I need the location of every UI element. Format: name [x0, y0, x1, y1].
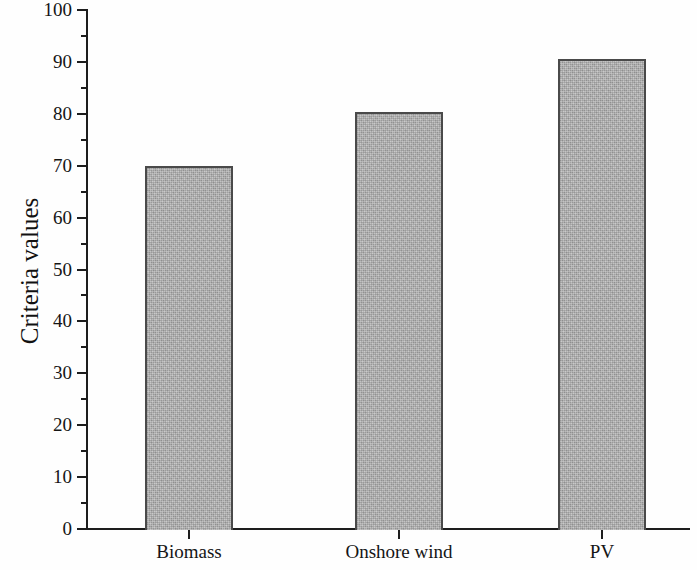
x-axis-label-onshore-wind: Onshore wind: [345, 541, 452, 563]
y-tick-label: 10: [0, 467, 72, 486]
y-tick-label-text: 50: [0, 260, 72, 279]
y-tick-label: 0: [0, 519, 72, 538]
y-tick-minor: [81, 294, 87, 296]
y-tick-label-text: 30: [0, 363, 72, 382]
x-tick: [601, 530, 603, 539]
y-tick-major: [77, 269, 87, 271]
y-tick-label-text: 10: [0, 467, 72, 486]
x-tick: [188, 530, 190, 539]
bar-biomass: [145, 166, 233, 530]
y-tick-label-text: 0: [0, 519, 72, 538]
y-tick-major: [77, 61, 87, 63]
y-tick-label-text: 40: [0, 311, 72, 330]
y-tick-minor: [81, 450, 87, 452]
y-tick-major: [77, 320, 87, 322]
bar-chart: Criteria values 0102030405060708090100 B…: [0, 0, 697, 570]
y-tick-label: 80: [0, 104, 72, 123]
y-tick-label-text: 90: [0, 52, 72, 71]
y-tick-minor: [81, 35, 87, 37]
y-tick-major: [77, 476, 87, 478]
y-tick-major: [77, 113, 87, 115]
y-tick-label-text: 60: [0, 208, 72, 227]
y-tick-minor: [81, 87, 87, 89]
y-tick-minor: [81, 139, 87, 141]
y-tick-major: [77, 165, 87, 167]
y-tick-label: 20: [0, 415, 72, 434]
y-tick-label-text: 20: [0, 415, 72, 434]
y-tick-label: 90: [0, 52, 72, 71]
y-tick-label-text: 100: [0, 0, 72, 19]
y-tick-label: 60: [0, 208, 72, 227]
y-tick-label-text: 80: [0, 104, 72, 123]
y-tick-major: [77, 372, 87, 374]
y-tick-label: 30: [0, 363, 72, 382]
y-tick-major: [77, 424, 87, 426]
y-tick-label: 70: [0, 156, 72, 175]
y-tick-minor: [81, 502, 87, 504]
y-tick-minor: [81, 346, 87, 348]
y-tick-minor: [81, 243, 87, 245]
y-tick-minor: [81, 398, 87, 400]
y-tick-major: [77, 9, 87, 11]
y-tick-major: [77, 217, 87, 219]
bar-pv: [558, 59, 646, 530]
x-axis-label-pv: PV: [590, 541, 614, 563]
x-tick: [398, 530, 400, 539]
y-tick-label: 40: [0, 311, 72, 330]
y-tick-major: [77, 528, 87, 530]
x-axis-label-biomass: Biomass: [156, 541, 221, 563]
y-tick-label-text: 70: [0, 156, 72, 175]
bar-onshore-wind: [355, 112, 443, 530]
y-tick-minor: [81, 191, 87, 193]
y-tick-label: 50: [0, 260, 72, 279]
y-tick-label: 100: [0, 0, 72, 19]
